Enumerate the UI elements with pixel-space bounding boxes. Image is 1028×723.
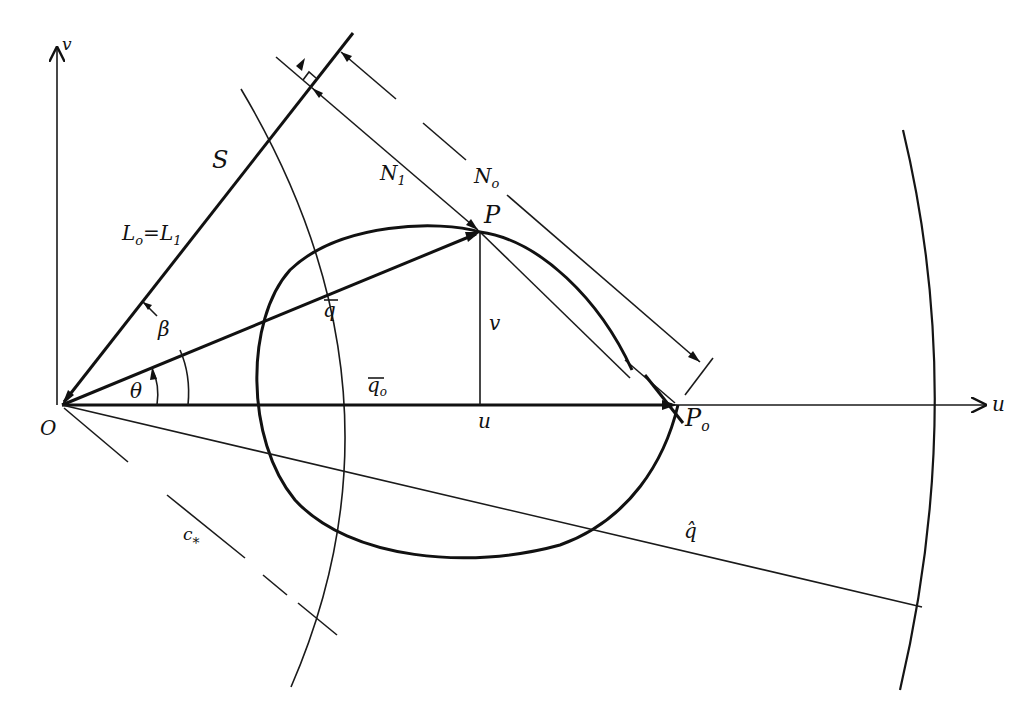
shock-polar-upper-right (480, 232, 632, 370)
n0-dimension-line (341, 52, 713, 395)
s-line (62, 33, 353, 405)
shock-polar-tick-at-P0 (645, 375, 683, 423)
label-L0-equals-L1: Lo=L1 (121, 221, 181, 248)
q0-vector (62, 400, 677, 410)
svg-text:Lo=L1: Lo=L1 (121, 221, 181, 248)
label-q-vector: q (323, 298, 336, 322)
label-P0: Po (684, 404, 710, 434)
v-axis: v (57, 34, 72, 405)
label-u-component: u (478, 409, 491, 433)
lower-ray (64, 408, 128, 462)
u-axis-label: u (992, 392, 1005, 416)
q-vector (62, 232, 480, 405)
beta-angle-marker (143, 302, 157, 316)
q-hat-line (62, 405, 922, 607)
label-theta: θ (130, 379, 142, 403)
hodograph-diagram: v u S Lo=L1 N1 No (0, 0, 1028, 723)
right-angle-marker (303, 72, 316, 80)
label-S: S (212, 146, 228, 174)
label-v-component: v (489, 311, 501, 335)
label-q-hat: q̂ (684, 519, 697, 543)
theta-angle-marker (150, 350, 189, 405)
label-P: P (483, 201, 501, 229)
shock-polar-loop (257, 226, 678, 558)
label-c-star: c* (183, 524, 200, 551)
label-N0: No (473, 164, 500, 191)
v-axis-label: v (62, 34, 72, 54)
label-q0-vector: qo (367, 373, 387, 399)
label-origin-O: O (40, 416, 56, 440)
label-beta: β (157, 317, 170, 341)
